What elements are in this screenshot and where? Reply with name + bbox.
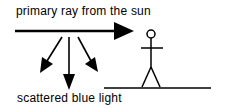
primary-ray-arrow xyxy=(15,22,134,40)
observer-stick-figure xyxy=(141,30,163,87)
scattered-ray-left-arrow xyxy=(40,37,62,73)
scattered-ray-down-arrow xyxy=(63,37,75,90)
scattered-ray-right-arrow xyxy=(78,37,98,72)
scattering-diagram xyxy=(0,0,225,109)
